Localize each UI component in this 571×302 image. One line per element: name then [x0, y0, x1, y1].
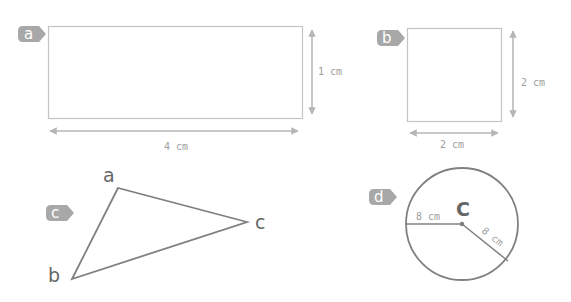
vertex-c-label: c: [255, 211, 265, 233]
rectangle-shape: [49, 27, 303, 119]
badge-label: c: [51, 204, 59, 222]
height-label: 2 cm: [521, 77, 545, 88]
figure-d-circle: d C 8 cm 8 cm: [369, 168, 518, 280]
radius-label-horizontal: 8 cm: [416, 211, 440, 222]
square-shape: [408, 29, 502, 122]
badge-d: d: [369, 188, 397, 206]
width-label: 2 cm: [440, 139, 464, 150]
geometry-diagram: a 1 cm 4 cm b 2 cm 2 cm c a b c d: [0, 0, 571, 302]
badge-label: d: [374, 188, 384, 206]
badge-label: a: [24, 25, 33, 43]
radius-label-diagonal: 8 cm: [480, 225, 506, 249]
width-label: 4 cm: [164, 141, 188, 152]
figure-c-triangle: c a b c: [46, 164, 265, 286]
badge-a: a: [18, 25, 46, 43]
vertex-a-label: a: [103, 164, 115, 186]
triangle-shape: [72, 188, 247, 279]
figure-b-square: b 2 cm 2 cm: [377, 29, 545, 151]
center-label: C: [456, 198, 470, 220]
badge-b: b: [377, 29, 405, 47]
badge-c: c: [46, 204, 74, 222]
vertex-b-label: b: [48, 264, 60, 286]
height-label: 1 cm: [318, 66, 342, 77]
center-point-icon: [460, 222, 465, 227]
badge-label: b: [382, 29, 392, 47]
figure-a-rectangle: a 1 cm 4 cm: [18, 25, 342, 152]
